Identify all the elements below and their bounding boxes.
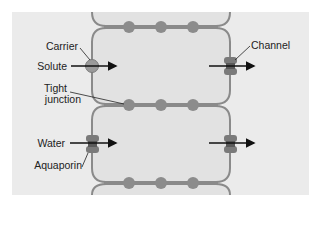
solute-label: Solute — [15, 61, 67, 72]
carrier-label: Carrier — [20, 41, 78, 52]
water-label: Water — [15, 138, 65, 149]
aquaporin-leader-line — [82, 153, 88, 167]
cell-bottom — [92, 106, 230, 182]
tight-junction-label-line2: junction — [15, 94, 81, 105]
aquaporin-label: Aquaporin — [20, 160, 82, 171]
carrier-leader-line — [80, 48, 90, 60]
channel-label: Channel — [251, 40, 290, 51]
channel-leader-line — [235, 46, 250, 60]
